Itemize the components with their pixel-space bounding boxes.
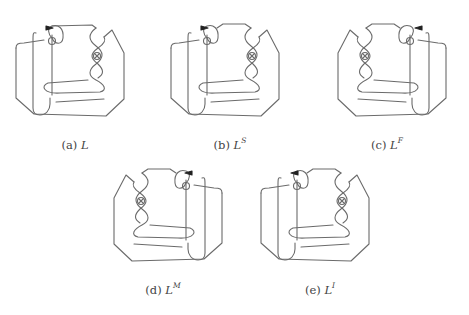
knot-diagram-a <box>0 10 150 130</box>
subfigure-a: (a) L <box>0 10 150 160</box>
caption-b: (b) LS <box>155 137 305 152</box>
subfigure-b: (b) LS <box>155 10 305 160</box>
knot-diagram-c <box>312 10 462 130</box>
caption-a: (a) L <box>0 137 150 152</box>
subfigure-e: (e) LI <box>245 155 395 305</box>
knot-diagram-b <box>155 10 305 130</box>
subfigure-d: (d) LM <box>88 155 238 305</box>
caption-d: (d) LM <box>88 282 238 297</box>
caption-e: (e) LI <box>245 282 395 297</box>
caption-c: (c) LF <box>312 137 462 152</box>
knot-diagram-d <box>88 155 238 275</box>
subfigure-c: (c) LF <box>312 10 462 160</box>
knot-diagram-e <box>245 155 395 275</box>
